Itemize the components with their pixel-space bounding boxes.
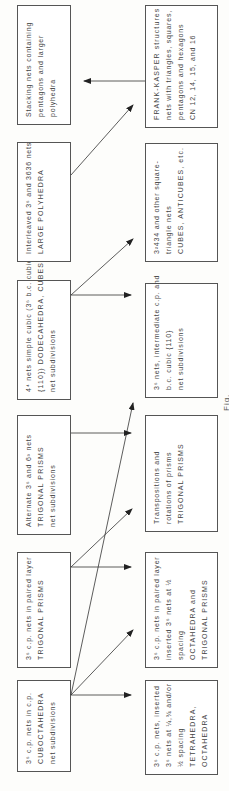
arrow-connectors: [0, 0, 229, 791]
figure-caption: Fig.: [222, 394, 229, 411]
arrow-cubic-to-square-triangle: [71, 239, 133, 295]
arrow-paired-to-transpositions: [71, 509, 132, 567]
arrow-interleaved-to-frank-kasper: [71, 105, 133, 175]
structure-hierarchy-diagram: 3⁶ c.p. nets in c.p. CUBOCTAHEDRA net su…: [0, 0, 229, 791]
arrow-cuboct-to-intermediate: [71, 403, 133, 695]
arrow-cuboct-to-paired-inserted: [71, 630, 133, 695]
